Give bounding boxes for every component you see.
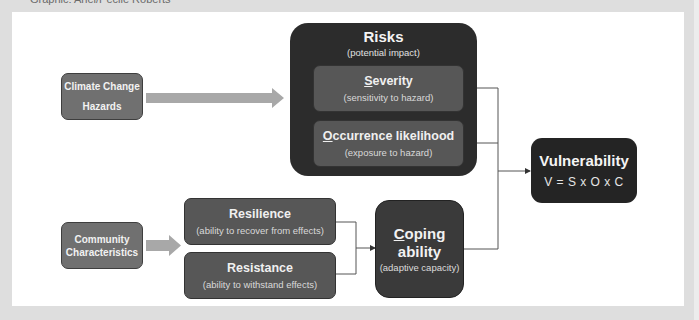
resilience-box: Resilience (ability to recover from effe…: [184, 198, 336, 245]
climate-line1: Climate Change: [64, 77, 140, 97]
occurrence-likelihood-box: Occurrence likelihood (exposure to hazar…: [313, 120, 464, 167]
severity-title: Severity: [364, 74, 413, 88]
risks-subtitle: (potential impact): [290, 47, 477, 58]
severity-box: Severity (sensitivity to hazard): [313, 65, 464, 112]
vulnerability-title: Vulnerability: [539, 152, 628, 169]
resistance-title: Resistance: [227, 261, 293, 275]
community-arrow: [146, 235, 181, 256]
occurrence-initial: O: [323, 129, 333, 143]
resistance-subtitle: (ability to withstand effects): [203, 279, 317, 290]
occurrence-subtitle: (exposure to hazard): [345, 147, 433, 158]
occurrence-rest: ccurrence likelihood: [333, 129, 455, 143]
coping-ability-box: Coping ability (adaptive capacity): [375, 200, 464, 298]
occurrence-title: Occurrence likelihood: [323, 129, 454, 143]
resilience-subtitle: (ability to recover from effects): [196, 225, 324, 236]
hazard-arrow: [146, 88, 284, 108]
community-line1: Community: [75, 233, 130, 246]
community-line2: Characteristics: [66, 246, 138, 259]
climate-change-hazards-box: Climate Change Hazards: [61, 73, 143, 120]
severity-subtitle: (sensitivity to hazard): [344, 92, 434, 103]
vulnerability-box: Vulnerability V = S x O x C: [531, 138, 637, 203]
vulnerability-formula: V = S x O x C: [544, 175, 624, 189]
climate-line2: Hazards: [83, 97, 122, 117]
coping-rest: oping: [405, 225, 446, 242]
community-characteristics-box: Community Characteristics: [61, 222, 143, 269]
coping-subtitle: (adaptive capacity): [380, 262, 460, 273]
resilience-title: Resilience: [229, 207, 291, 221]
risks-title: Risks: [290, 28, 477, 45]
severity-initial: S: [364, 74, 372, 88]
coping-line2: ability: [398, 243, 441, 261]
severity-rest: everity: [373, 74, 413, 88]
resistance-box: Resistance (ability to withstand effects…: [184, 252, 336, 299]
coping-initial: C: [394, 225, 405, 242]
coping-title: Coping: [394, 225, 446, 243]
